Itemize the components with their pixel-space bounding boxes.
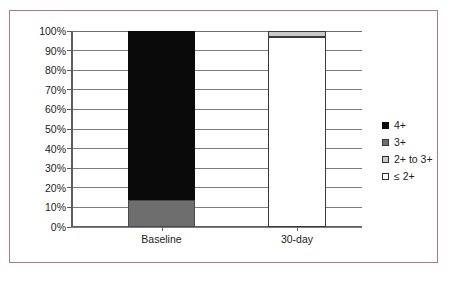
y-axis-tick-label: 0%: [22, 222, 66, 233]
legend-item-label: ≤ 2+: [394, 171, 415, 182]
y-axis-tick-mark: [67, 168, 71, 169]
y-axis-tick-label: 20%: [22, 183, 66, 194]
y-axis-tick-mark: [67, 89, 71, 90]
legend-swatch-icon: [382, 139, 389, 146]
y-axis-tick-label: 70%: [22, 85, 66, 96]
caption-sliver: [14, 276, 334, 285]
x-axis-category-label: 30-day: [281, 233, 313, 245]
y-axis-tick-mark: [67, 70, 71, 71]
bar-segment[interactable]: [128, 200, 195, 227]
y-axis-tick-mark: [67, 227, 71, 228]
y-axis-tick-mark: [67, 129, 71, 130]
x-axis-tick-mark: [297, 227, 298, 231]
chart-figure-frame: 0%10%20%30%40%50%60%70%80%90%100% Baseli…: [9, 10, 438, 263]
legend-item-label: 4+: [394, 120, 406, 131]
legend-swatch-icon: [382, 122, 389, 129]
legend-item[interactable]: ≤ 2+: [382, 168, 433, 185]
y-axis-tick-mark: [67, 148, 71, 149]
y-axis-tick-labels: 0%10%20%30%40%50%60%70%80%90%100%: [14, 11, 66, 262]
bar-segment[interactable]: [268, 37, 326, 227]
y-axis-tick-mark: [67, 187, 71, 188]
chart-area: 0%10%20%30%40%50%60%70%80%90%100% Baseli…: [10, 11, 437, 262]
legend-swatch-icon: [382, 156, 389, 163]
bar-stack-baseline[interactable]: [128, 31, 195, 227]
y-axis-tick-mark: [67, 207, 71, 208]
bar-segment[interactable]: [268, 31, 326, 37]
y-axis-tick-mark: [67, 50, 71, 51]
y-axis-tick-label: 100%: [22, 26, 66, 37]
bar-stack-30-day[interactable]: [268, 31, 326, 227]
legend-swatch-icon: [382, 173, 389, 180]
legend-item-label: 2+ to 3+: [394, 154, 433, 165]
y-axis-tick-label: 60%: [22, 104, 66, 115]
y-axis-tick-label: 80%: [22, 65, 66, 76]
y-axis-tick-label: 50%: [22, 124, 66, 135]
y-axis-tick-label: 90%: [22, 45, 66, 56]
y-axis-tick-mark: [67, 109, 71, 110]
y-axis-line: [71, 31, 73, 227]
chart-legend: 4+3+2+ to 3+≤ 2+: [382, 117, 433, 185]
y-axis-tick-mark: [67, 31, 71, 32]
y-axis-tick-label: 10%: [22, 202, 66, 213]
legend-item-label: 3+: [394, 137, 406, 148]
y-axis-tick-label: 30%: [22, 163, 66, 174]
legend-item[interactable]: 3+: [382, 134, 433, 151]
plot-area: [71, 31, 362, 227]
x-axis-tick-mark: [162, 227, 163, 231]
legend-item[interactable]: 4+: [382, 117, 433, 134]
y-axis-tick-label: 40%: [22, 143, 66, 154]
bar-segment[interactable]: [128, 31, 195, 200]
legend-item[interactable]: 2+ to 3+: [382, 151, 433, 168]
x-axis-category-label: Baseline: [141, 233, 181, 245]
